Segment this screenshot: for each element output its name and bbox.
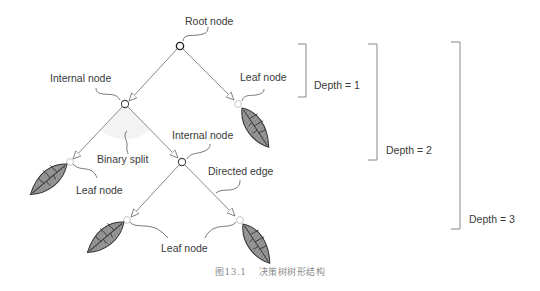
root-node-label: Root node (185, 16, 233, 27)
leaf-node-label-2: Leaf node (76, 185, 123, 196)
edge-internal2-leaf3 (131, 165, 179, 217)
depth-3-label: Depth = 3 (469, 214, 515, 225)
leaf-node-label-1: Leaf node (240, 72, 287, 83)
internal-node-2 (178, 158, 185, 165)
leaf-node-label-3: Leaf node (161, 243, 208, 254)
depth-2-bracket (368, 44, 377, 160)
binary-split-label: Binary split (97, 154, 148, 165)
leaf-node-1 (235, 101, 242, 108)
decision-tree-figure: Root node Internal node Leaf node Intern… (0, 0, 540, 291)
depth-2-label: Depth = 2 (386, 145, 432, 156)
figure-number: 图13.1 (215, 267, 247, 277)
tree-diagram (0, 0, 540, 291)
figure-caption: 图13.1决策树树形结构 (0, 265, 540, 278)
leaf-icon (30, 155, 69, 204)
root-node (176, 42, 183, 49)
leaf-node-2 (67, 159, 74, 166)
leaf-node-3 (124, 217, 131, 224)
leaf-node-4 (237, 217, 244, 224)
directed-edge-label: Directed edge (208, 166, 273, 177)
figure-caption-text: 决策树树形结构 (259, 267, 326, 277)
internal-node-1 (121, 100, 128, 107)
internal-node-label-1: Internal node (50, 73, 111, 84)
leaf-icon (241, 220, 270, 267)
edge-root-leaf1 (183, 49, 234, 100)
depth-brackets (298, 42, 460, 229)
edge-root-internal1 (129, 49, 177, 101)
depth-1-label: Depth = 1 (314, 80, 360, 91)
depth-1-bracket (298, 44, 306, 97)
depth-3-bracket (451, 42, 460, 229)
leaf-icon (240, 104, 269, 151)
leaf-icon (87, 213, 126, 262)
internal-node-label-2: Internal node (172, 130, 233, 141)
